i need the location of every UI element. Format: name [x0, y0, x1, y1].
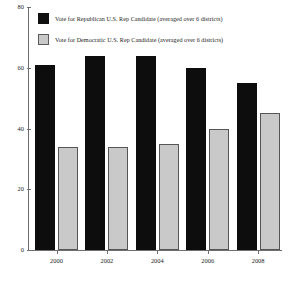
- bar-democratic: [108, 147, 128, 250]
- y-axis-tick-label: 60: [18, 64, 24, 71]
- x-axis-tick-label: 2004: [151, 257, 164, 264]
- bar-democratic: [58, 147, 78, 250]
- x-axis-tick: [208, 251, 209, 254]
- bar-democratic: [209, 129, 229, 251]
- y-axis-tick-label: 0: [21, 246, 24, 253]
- bar-group: [186, 8, 229, 250]
- bar-republican: [186, 68, 206, 250]
- y-axis-tick-label: 80: [18, 3, 24, 10]
- x-axis-tick-label: 2000: [50, 257, 63, 264]
- y-axis-tick-label: 40: [18, 125, 24, 132]
- bar-chart: Vote for Republican U.S. Rep Candidate (…: [0, 0, 289, 282]
- x-axis-tick-label: 2006: [201, 257, 214, 264]
- y-axis-tick-label: 20: [18, 185, 24, 192]
- bar-democratic: [260, 113, 280, 250]
- x-axis-tick-label: 2008: [252, 257, 265, 264]
- x-axis-line: [28, 250, 282, 251]
- x-axis-tick-label: 2002: [101, 257, 114, 264]
- x-axis-tick: [107, 251, 108, 254]
- bar-group: [35, 8, 78, 250]
- x-axis-tick: [157, 251, 158, 254]
- bar-group: [136, 8, 179, 250]
- bar-group: [237, 8, 280, 250]
- x-axis-tick: [57, 251, 58, 254]
- y-axis-tick: 0: [27, 250, 31, 251]
- bar-republican: [237, 83, 257, 250]
- bar-republican: [35, 65, 55, 250]
- x-axis-tick: [258, 251, 259, 254]
- bar-republican: [136, 56, 156, 250]
- bar-republican: [85, 56, 105, 250]
- bar-group: [85, 8, 128, 250]
- bar-democratic: [159, 144, 179, 250]
- bars-layer: [29, 8, 282, 250]
- plot-area: 020406080 20002002200420062008: [28, 8, 282, 251]
